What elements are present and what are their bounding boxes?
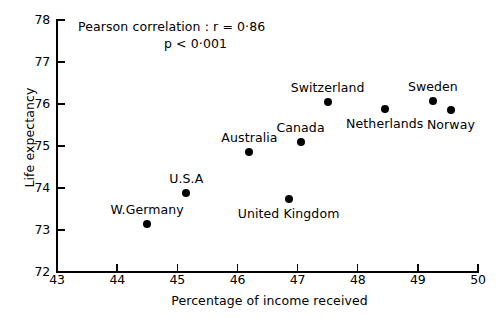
data-point-label: Australia [221, 132, 277, 145]
data-point-label: W.Germany [111, 204, 184, 217]
data-point [285, 195, 293, 203]
x-tick-label-43: 43 [37, 274, 77, 287]
data-point [297, 138, 305, 146]
x-tick-label-48: 48 [338, 274, 378, 287]
data-point-label: Netherlands [346, 118, 423, 131]
data-point-label: Norway [427, 119, 475, 132]
x-tick-label-45: 45 [157, 274, 197, 287]
plot-area [57, 20, 478, 272]
x-tick-label-49: 49 [398, 274, 438, 287]
data-point-label: Switzerland [291, 82, 365, 95]
x-axis-title: Percentage of income received [0, 293, 499, 308]
x-tick-label-50: 50 [458, 274, 498, 287]
data-point [143, 220, 151, 228]
x-tick-label-47: 47 [278, 274, 318, 287]
x-tick-label-46: 46 [217, 274, 257, 287]
data-point-label: Canada [276, 122, 324, 135]
data-point [324, 98, 332, 106]
data-point-label: United Kingdom [238, 208, 340, 221]
x-tick-label-44: 44 [97, 274, 137, 287]
data-point-label: U.S.A [169, 173, 203, 186]
data-point-label: Sweden [408, 81, 458, 94]
y-axis-title: Life expectancy [22, 13, 37, 263]
scatter-plot-figure: 72737475767778 4344454647484950 Pearson … [0, 0, 499, 319]
data-point [429, 97, 437, 105]
x-axis-title-text: Percentage of income received [131, 293, 368, 308]
